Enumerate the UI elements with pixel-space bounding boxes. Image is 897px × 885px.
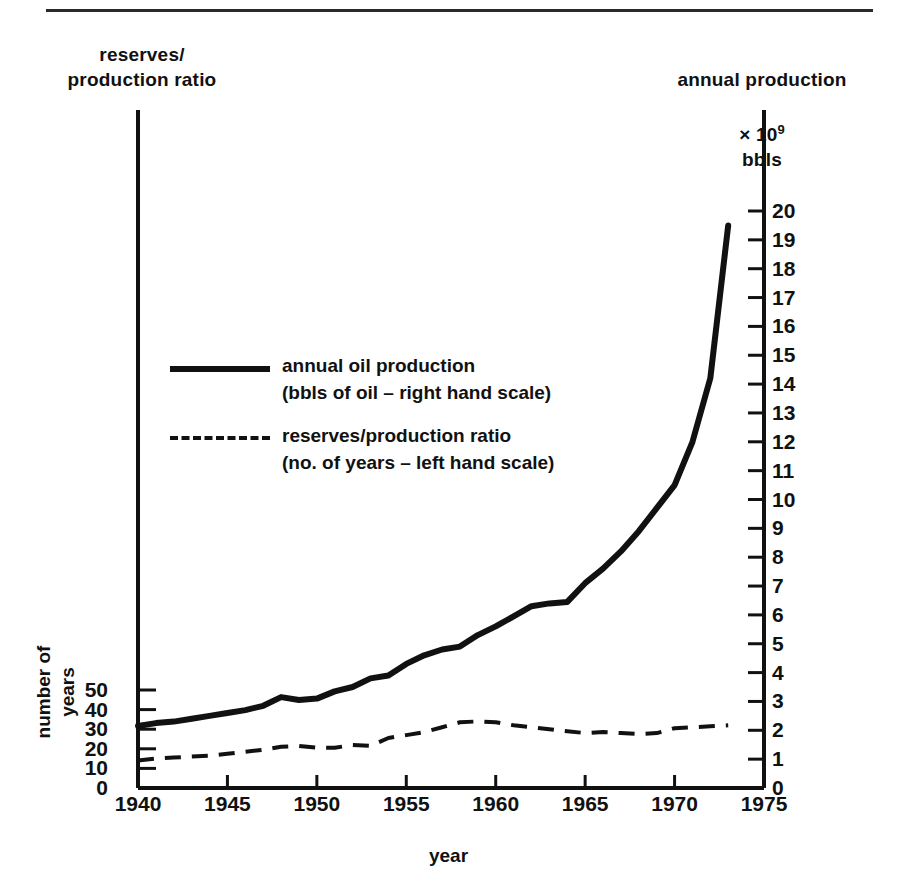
right-tick-label-2: 2 [772, 719, 784, 740]
right-tick-label-3: 3 [772, 690, 784, 711]
right-tick-label-12: 12 [772, 431, 795, 452]
x-tick-label-1960: 1960 [451, 793, 541, 814]
right-tick-label-11: 11 [772, 460, 794, 481]
right-tick-label-1: 1 [772, 748, 784, 769]
right-axis-ticks [748, 211, 764, 788]
x-tick-label-1970: 1970 [630, 793, 720, 814]
right-tick-label-19: 19 [772, 229, 795, 250]
legend-swatch-solid [170, 366, 270, 372]
x-tick-label-1975: 1975 [719, 793, 809, 814]
x-tick-label-1940: 1940 [93, 793, 183, 814]
legend-swatch-dashed [170, 436, 270, 440]
right-tick-label-14: 14 [772, 373, 795, 394]
x-tick-label-1955: 1955 [361, 793, 451, 814]
right-tick-label-10: 10 [772, 489, 795, 510]
x-tick-label-1965: 1965 [540, 793, 630, 814]
chart-figure: reserves/ production ratio annual produc… [0, 0, 897, 885]
right-tick-label-20: 20 [772, 200, 795, 221]
right-tick-label-17: 17 [772, 287, 795, 308]
right-tick-label-4: 4 [772, 662, 784, 683]
chart-legend: annual oil production (bbls of oil – rig… [170, 352, 590, 478]
x-tick-label-1950: 1950 [272, 793, 362, 814]
legend-entry: reserves/production ratio (no. of years … [170, 422, 590, 478]
right-tick-label-6: 6 [772, 604, 784, 625]
right-tick-label-16: 16 [772, 315, 795, 336]
right-tick-label-18: 18 [772, 258, 795, 279]
legend-label: annual oil production (bbls of oil – rig… [282, 352, 551, 406]
left-axis-title: number of years [32, 622, 80, 762]
right-tick-label-7: 7 [772, 575, 784, 596]
right-tick-label-5: 5 [772, 633, 784, 654]
right-tick-label-9: 9 [772, 517, 784, 538]
legend-label: reserves/production ratio (no. of years … [282, 422, 554, 476]
x-tick-label-1945: 1945 [182, 793, 272, 814]
series-line-reserves-production-ratio [138, 721, 728, 760]
right-tick-label-13: 13 [772, 402, 795, 423]
right-tick-label-8: 8 [772, 546, 784, 567]
legend-entry: annual oil production (bbls of oil – rig… [170, 352, 590, 408]
left-axis-ticks [138, 690, 156, 788]
right-tick-label-15: 15 [772, 344, 795, 365]
x-axis-title: year [0, 845, 897, 867]
